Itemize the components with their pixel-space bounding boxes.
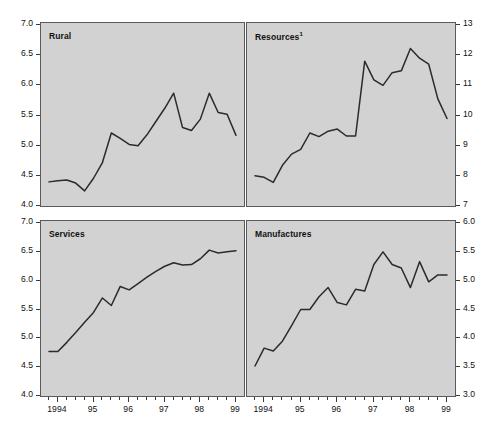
y-tick-mark-manufactures bbox=[456, 222, 460, 223]
y-axis-label-manufactures: 6.0 bbox=[463, 217, 496, 226]
y-tick-mark-rural bbox=[36, 115, 40, 116]
x-tick-mark-quarter bbox=[182, 397, 183, 400]
x-tick-mark-quarter bbox=[190, 397, 191, 400]
x-tick-mark-quarter bbox=[208, 397, 209, 400]
y-tick-mark-rural bbox=[36, 145, 40, 146]
panel-title-footnote-marker: 1 bbox=[299, 31, 302, 37]
y-axis-label-services: 4.5 bbox=[0, 361, 33, 370]
x-axis-label-services: 98 bbox=[179, 405, 219, 414]
y-axis-label-rural: 6.5 bbox=[0, 49, 33, 58]
y-tick-mark-manufactures bbox=[456, 395, 460, 396]
y-tick-mark-resources bbox=[456, 115, 460, 116]
x-tick-mark-year bbox=[199, 397, 200, 402]
x-axis-label-services: 1994 bbox=[37, 405, 77, 414]
x-tick-mark-quarter bbox=[272, 397, 273, 400]
x-tick-mark-quarter bbox=[327, 397, 328, 400]
x-tick-mark-quarter bbox=[217, 397, 218, 400]
y-axis-label-resources: 7 bbox=[463, 200, 496, 209]
series-line-services bbox=[41, 221, 245, 397]
y-tick-mark-rural bbox=[36, 175, 40, 176]
y-tick-mark-manufactures bbox=[456, 337, 460, 338]
y-axis-label-services: 5.0 bbox=[0, 332, 33, 341]
y-tick-mark-manufactures bbox=[456, 251, 460, 252]
x-tick-mark-quarter bbox=[437, 397, 438, 400]
x-tick-mark-quarter bbox=[66, 397, 67, 400]
x-tick-mark-quarter bbox=[173, 397, 174, 400]
x-axis-label-manufactures: 99 bbox=[426, 405, 466, 414]
y-axis-label-rural: 5.5 bbox=[0, 110, 33, 119]
x-tick-mark-quarter bbox=[75, 397, 76, 400]
x-tick-mark-quarter bbox=[110, 397, 111, 400]
y-tick-mark-services bbox=[36, 366, 40, 367]
x-tick-mark-quarter bbox=[318, 397, 319, 400]
x-tick-mark-year bbox=[263, 397, 264, 402]
y-tick-mark-manufactures bbox=[456, 366, 460, 367]
x-tick-mark-quarter bbox=[400, 397, 401, 400]
y-axis-label-rural: 5.0 bbox=[0, 140, 33, 149]
x-tick-mark-quarter bbox=[48, 397, 49, 400]
x-axis-label-manufactures: 96 bbox=[316, 405, 356, 414]
y-axis-label-manufactures: 5.0 bbox=[463, 275, 496, 284]
x-axis-label-services: 97 bbox=[144, 405, 184, 414]
x-tick-mark-quarter bbox=[84, 397, 85, 400]
y-axis-label-manufactures: 5.5 bbox=[463, 246, 496, 255]
y-tick-mark-services bbox=[36, 222, 40, 223]
x-tick-mark-quarter bbox=[428, 397, 429, 400]
figure-root: Rural4.04.55.05.56.06.57.0Resources17891… bbox=[0, 0, 503, 444]
y-axis-label-services: 6.5 bbox=[0, 246, 33, 255]
y-tick-mark-rural bbox=[36, 54, 40, 55]
x-tick-mark-year bbox=[446, 397, 447, 402]
x-tick-mark-quarter bbox=[146, 397, 147, 400]
x-tick-mark-quarter bbox=[364, 397, 365, 400]
x-axis-label-manufactures: 97 bbox=[353, 405, 393, 414]
panel-title-text: Rural bbox=[49, 31, 71, 41]
y-axis-label-rural: 7.0 bbox=[0, 19, 33, 28]
panel-title-services: Services bbox=[49, 229, 85, 239]
x-tick-mark-quarter bbox=[419, 397, 420, 400]
x-tick-mark-quarter bbox=[119, 397, 120, 400]
y-tick-mark-rural bbox=[36, 205, 40, 206]
panel-title-text: Services bbox=[49, 229, 85, 239]
series-line-resources bbox=[247, 23, 456, 207]
y-axis-label-services: 5.5 bbox=[0, 304, 33, 313]
y-axis-label-manufactures: 3.0 bbox=[463, 390, 496, 399]
series-line-manufactures bbox=[247, 221, 456, 397]
x-axis-label-manufactures: 98 bbox=[389, 405, 429, 414]
y-tick-mark-manufactures bbox=[456, 309, 460, 310]
panel-title-manufactures: Manufactures bbox=[255, 229, 311, 239]
x-axis-label-services: 95 bbox=[73, 405, 113, 414]
x-tick-mark-quarter bbox=[291, 397, 292, 400]
y-tick-mark-services bbox=[36, 251, 40, 252]
y-tick-mark-manufactures bbox=[456, 280, 460, 281]
plot-area-manufactures bbox=[246, 220, 456, 397]
y-axis-label-resources: 11 bbox=[463, 79, 496, 88]
x-tick-mark-quarter bbox=[391, 397, 392, 400]
y-tick-mark-services bbox=[36, 337, 40, 338]
y-axis-label-manufactures: 3.5 bbox=[463, 361, 496, 370]
y-tick-mark-resources bbox=[456, 175, 460, 176]
x-tick-mark-quarter bbox=[309, 397, 310, 400]
x-tick-mark-year bbox=[93, 397, 94, 402]
plot-area-services bbox=[40, 220, 245, 397]
panel-title-rural: Rural bbox=[49, 31, 71, 41]
y-tick-mark-services bbox=[36, 395, 40, 396]
x-axis-label-manufactures: 1994 bbox=[243, 405, 283, 414]
y-axis-label-resources: 8 bbox=[463, 170, 496, 179]
y-axis-label-rural: 4.5 bbox=[0, 170, 33, 179]
y-tick-mark-resources bbox=[456, 84, 460, 85]
x-tick-mark-year bbox=[336, 397, 337, 402]
panel-title-text: Manufactures bbox=[255, 229, 311, 239]
series-line-rural bbox=[41, 23, 245, 207]
y-tick-mark-services bbox=[36, 309, 40, 310]
y-axis-label-resources: 10 bbox=[463, 110, 496, 119]
x-tick-mark-quarter bbox=[345, 397, 346, 400]
x-tick-mark-year bbox=[164, 397, 165, 402]
plot-area-resources bbox=[246, 22, 456, 207]
x-tick-mark-quarter bbox=[101, 397, 102, 400]
x-tick-mark-quarter bbox=[137, 397, 138, 400]
x-tick-mark-quarter bbox=[155, 397, 156, 400]
y-tick-mark-resources bbox=[456, 145, 460, 146]
panel-title-resources: Resources1 bbox=[255, 31, 303, 42]
y-tick-mark-rural bbox=[36, 84, 40, 85]
y-tick-mark-resources bbox=[456, 205, 460, 206]
